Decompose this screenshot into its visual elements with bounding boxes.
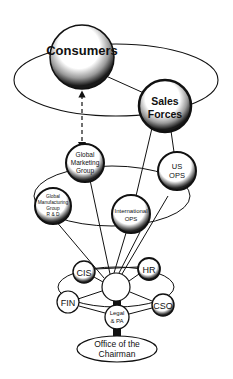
- cis-label: CIS: [76, 268, 91, 278]
- fin-label: FIN: [61, 298, 76, 308]
- edge-hub-cso: [130, 292, 152, 301]
- global-manufacturing-label-2: Manufacturing: [38, 200, 69, 205]
- legal-pa-label-2: & PA: [110, 318, 123, 324]
- node-global-manufacturing-group[interactable]: Global Manufacturing Group R & D: [35, 188, 71, 224]
- node-cis[interactable]: CIS: [73, 261, 95, 283]
- cso-label: CSO: [153, 301, 173, 311]
- chairman-label-2: Chairman: [99, 349, 136, 359]
- international-ops-label-2: OPS: [125, 216, 138, 222]
- node-sales-forces[interactable]: Sales Forces: [139, 80, 191, 132]
- node-office-of-the-chairman[interactable]: Office of the Chairman: [77, 336, 157, 362]
- sales-forces-label-1: Sales: [151, 95, 179, 107]
- legal-pa-circle: [105, 305, 129, 329]
- edge-sales-intlops: [136, 128, 152, 196]
- sales-forces-label-2: Forces: [148, 108, 183, 120]
- edge-fin-legal: [79, 306, 105, 313]
- global-manufacturing-label-4: R & D: [47, 212, 60, 217]
- consumers-label: Consumers: [46, 43, 118, 58]
- edge-hub-fin: [78, 291, 102, 299]
- node-international-ops[interactable]: International OPS: [112, 195, 150, 233]
- international-ops-sphere: [112, 195, 150, 233]
- us-ops-label-1: US: [172, 162, 182, 171]
- legal-pa-label-1: Legal: [110, 310, 125, 316]
- global-marketing-label-1: Global: [76, 151, 95, 158]
- chairman-label-1: Office of the: [94, 339, 140, 349]
- node-hub[interactable]: [102, 273, 130, 301]
- edge-cso-legal: [129, 308, 152, 314]
- global-manufacturing-label-1: Global: [46, 194, 60, 199]
- node-legal-pa[interactable]: Legal & PA: [105, 305, 129, 329]
- org-network-diagram: Consumers Sales Forces Global Marketing …: [0, 0, 233, 379]
- global-manufacturing-label-3: Group: [46, 206, 60, 211]
- hub-circle: [102, 273, 130, 301]
- hr-label: HR: [143, 265, 156, 275]
- edge-hub-hr: [129, 274, 139, 281]
- edge-sales-usops: [171, 131, 174, 152]
- node-cso[interactable]: CSO: [152, 294, 174, 316]
- us-ops-label-2: OPS: [169, 171, 185, 180]
- node-hr[interactable]: HR: [138, 258, 160, 280]
- node-fin[interactable]: FIN: [57, 291, 79, 313]
- node-consumers[interactable]: Consumers: [46, 25, 118, 89]
- global-marketing-label-2: Marketing: [71, 159, 100, 167]
- edge-hub-marketing: [90, 180, 110, 274]
- global-marketing-label-3: Group: [76, 167, 94, 175]
- edge-consumers-sales: [106, 76, 146, 94]
- international-ops-label-1: International: [114, 208, 147, 214]
- edge-hub-cis: [94, 277, 103, 282]
- node-global-marketing-group[interactable]: Global Marketing Group: [66, 144, 104, 182]
- node-us-ops[interactable]: US OPS: [158, 152, 196, 190]
